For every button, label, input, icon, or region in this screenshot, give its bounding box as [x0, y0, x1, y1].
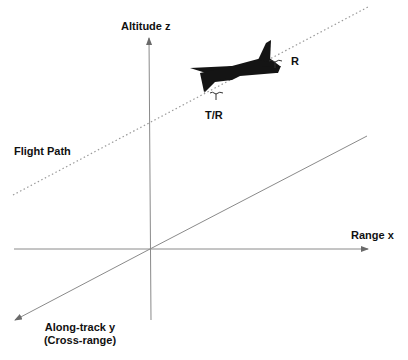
- along-track-label: Along-track y: [40, 321, 120, 334]
- along-track-axis: [15, 249, 150, 320]
- antenna-icon: [210, 92, 223, 100]
- flight-path-label: Flight Path: [14, 145, 71, 158]
- receiver-label: R: [291, 55, 299, 68]
- flight-path-line: [13, 7, 368, 195]
- along-track-axis-upper: [150, 136, 367, 249]
- range-axis-label: Range x: [351, 229, 394, 242]
- altitude-axis-label: Altitude z: [121, 20, 171, 33]
- transmit-receive-label: T/R: [205, 109, 223, 122]
- altitude-axis: [149, 38, 151, 320]
- airplane-icon: [190, 40, 281, 93]
- radar-geometry-diagram: [0, 0, 408, 360]
- along-track-axis-label: Along-track y (Cross-range): [40, 321, 120, 347]
- cross-range-label: (Cross-range): [40, 334, 120, 347]
